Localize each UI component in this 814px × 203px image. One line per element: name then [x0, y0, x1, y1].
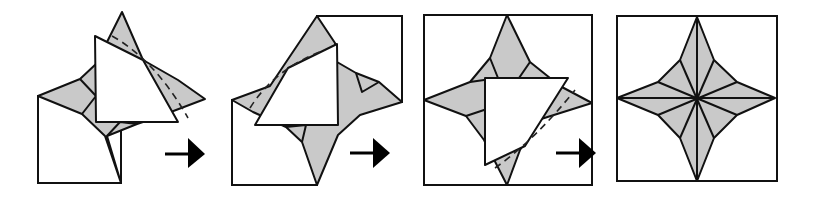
- step-1-panel: [38, 12, 205, 183]
- arrow-right-icon: [373, 138, 390, 168]
- step-2-panel: [232, 16, 402, 185]
- step-3-panel: [424, 15, 596, 185]
- step-4-panel: [617, 16, 777, 181]
- origami-diagram: [0, 0, 814, 203]
- center-point: [695, 96, 700, 101]
- arrow-right-icon: [188, 138, 205, 168]
